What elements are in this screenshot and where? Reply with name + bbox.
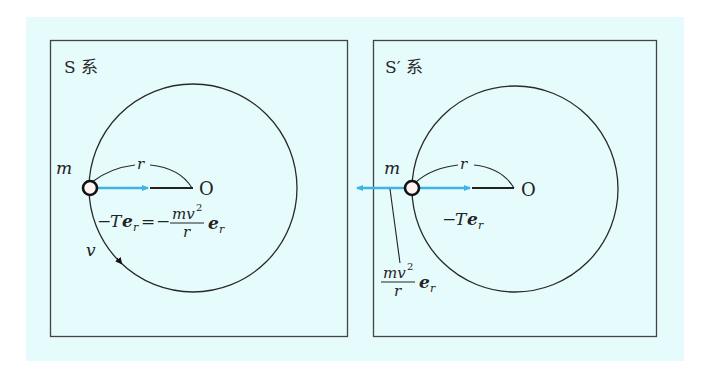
centrifugal-exponent: 2 — [407, 261, 413, 272]
left-radius-bracket — [92, 165, 135, 182]
right-mass-icon — [405, 181, 419, 195]
right-radius-label: r — [460, 155, 468, 173]
right-mass-label: m — [384, 158, 400, 178]
eq-lhs-unit-vector: e — [122, 211, 133, 231]
eq-rhs-subscript: r — [219, 223, 225, 236]
right-radius-bracket — [416, 165, 458, 182]
tension-unit-vector: e — [467, 209, 478, 229]
left-velocity-label: v — [86, 240, 96, 260]
eq-equals: = — [141, 211, 155, 231]
left-radius-label: r — [137, 155, 145, 173]
centrifugal-subscript: r — [430, 282, 436, 295]
centrifugal-denominator: r — [394, 282, 402, 300]
left-force-equation: − T e r = − mv 2 r e r — [97, 202, 225, 241]
right-radius-bracket-right — [474, 165, 514, 188]
centrifugal-numerator: mv — [383, 264, 406, 282]
centrifugal-leader-line — [390, 189, 400, 263]
eq-rhs-sign: − — [156, 211, 170, 231]
eq-lhs-subscript: r — [133, 221, 139, 234]
right-tension-label: − T e r — [442, 209, 484, 232]
left-mass-icon — [83, 181, 97, 195]
left-origin-label: O — [199, 178, 214, 199]
left-panel-s-frame: S 系 r m O v − T e r = − mv 2 r — [51, 41, 348, 337]
left-radius-bracket-right — [150, 165, 192, 188]
tension-subscript: r — [478, 219, 484, 232]
diagram-canvas: S 系 r m O v − T e r = − mv 2 r — [0, 0, 708, 371]
eq-rhs-numerator: mv — [172, 205, 195, 223]
eq-rhs-exponent: 2 — [196, 202, 202, 213]
eq-rhs-denominator: r — [183, 223, 191, 241]
centrifugal-unit-vector: e — [419, 272, 430, 292]
right-centrifugal-label: mv 2 r e r — [381, 261, 436, 300]
left-frame-label: S 系 — [64, 57, 98, 77]
eq-rhs-unit-vector: e — [208, 213, 219, 233]
right-origin-label: O — [521, 179, 536, 200]
right-frame-label: S′ 系 — [385, 57, 423, 77]
left-mass-label: m — [56, 158, 72, 178]
right-panel-s-prime-frame: S′ 系 r m O − T e r mv 2 r — [357, 41, 657, 337]
